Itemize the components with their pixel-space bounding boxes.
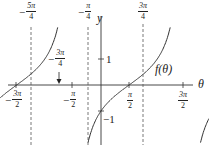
asymptote-label-3pi-4: 3π4 [137,2,148,21]
x-tick-label-neg-pi-2: − π2 [63,90,76,109]
y-axis-label: y [97,12,102,24]
asymptote-lines [31,24,143,145]
x-tick-label-3pi-2: 3π2 [177,91,188,110]
y-tick-label-1: 1 [106,54,112,65]
x-axis-label: θ [198,78,204,90]
curve-branch [201,119,210,143]
x-tick-label-pi-2: π2 [126,91,133,110]
annotation-label-neg-3pi-4: − 3π4 [48,49,65,68]
plot-canvas [0,0,209,149]
y-tick-label-neg1: −1 [103,114,115,125]
annotation-arrow [57,72,62,84]
function-label: f(θ) [155,63,172,75]
asymptote-label-neg-pi-4: − π4 [78,2,91,21]
x-tick-label-neg-3pi-2: − 3π2 [5,90,22,109]
asymptote-label-neg-5pi-4: − 5π4 [19,2,36,21]
